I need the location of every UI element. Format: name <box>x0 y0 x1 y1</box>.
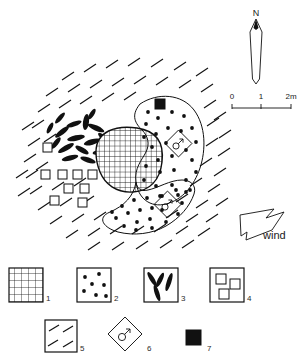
solid-square-icon <box>186 330 201 345</box>
crosshatched-area <box>96 127 162 192</box>
solid-black-square-marker <box>155 99 165 109</box>
scale-tick-2: 2m <box>285 92 296 101</box>
legend-number-4: 4 <box>247 294 252 303</box>
legend-number-2: 2 <box>114 294 119 303</box>
dashes-square-icon <box>45 320 77 352</box>
north-arrow-label: N <box>253 8 260 18</box>
legend-number-7: 7 <box>207 344 212 353</box>
legend-number-6: 6 <box>147 344 152 353</box>
site-plan-figure: N 0 1 2m wind 1 <box>0 0 305 360</box>
legend-number-3: 3 <box>181 294 186 303</box>
wind-label: wind <box>262 229 286 241</box>
legend-number-5: 5 <box>80 344 85 353</box>
scale-tick-0: 0 <box>230 92 235 101</box>
scale-tick-1: 1 <box>259 92 264 101</box>
crosshatch-square-icon <box>9 268 43 302</box>
legend-number-1: 1 <box>46 294 51 303</box>
